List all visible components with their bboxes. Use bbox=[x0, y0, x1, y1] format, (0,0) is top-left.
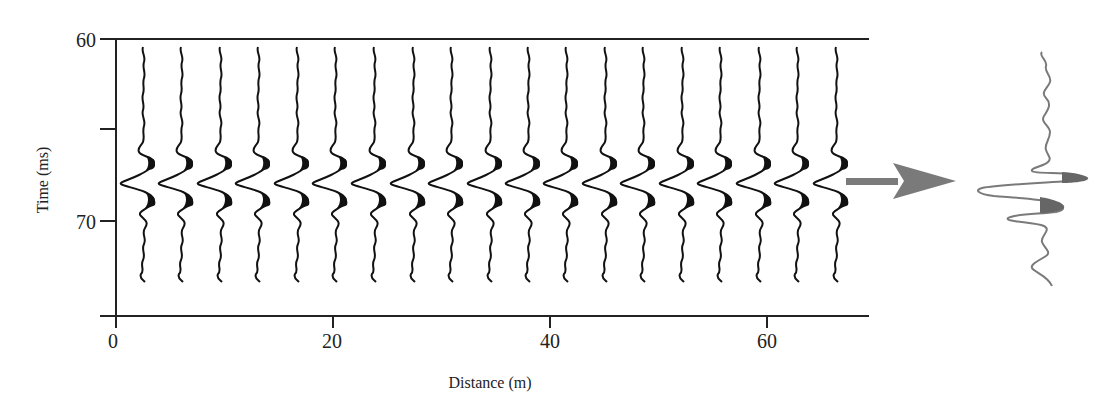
trace-8 bbox=[391, 47, 426, 282]
y-axis-label: Time (ms) bbox=[34, 147, 52, 214]
trace-11 bbox=[506, 47, 541, 282]
trace-12 bbox=[544, 47, 579, 282]
x-tick-label-0: 0 bbox=[108, 330, 118, 352]
trace-3 bbox=[198, 47, 233, 282]
trace-10 bbox=[468, 47, 503, 282]
x-tick-label-20: 20 bbox=[322, 330, 342, 352]
trace-18 bbox=[775, 47, 810, 282]
trace-7 bbox=[352, 47, 387, 282]
trace-14 bbox=[621, 47, 656, 282]
trace-6 bbox=[313, 47, 348, 282]
x-tick-label-40: 40 bbox=[540, 330, 560, 352]
trace-9 bbox=[429, 47, 464, 282]
trace-4 bbox=[236, 47, 271, 282]
x-axis-label: Distance (m) bbox=[448, 374, 531, 392]
trace-15 bbox=[660, 47, 695, 282]
y-tick-label-70: 70 bbox=[76, 211, 96, 233]
trace-19 bbox=[814, 47, 849, 282]
trace-5 bbox=[275, 47, 310, 282]
trace-2 bbox=[159, 47, 194, 282]
trace-17 bbox=[737, 47, 772, 282]
trace-1 bbox=[121, 47, 156, 282]
detail-trace bbox=[978, 52, 1088, 286]
arrow-right-icon bbox=[846, 163, 956, 199]
seismic-figure: 60 70 Time (ms) 0 20 40 60 Distance (m) bbox=[0, 0, 1106, 412]
y-tick-label-60: 60 bbox=[76, 29, 96, 51]
x-tick-label-60: 60 bbox=[757, 330, 777, 352]
traces bbox=[121, 47, 849, 282]
trace-13 bbox=[583, 47, 618, 282]
trace-16 bbox=[698, 47, 733, 282]
